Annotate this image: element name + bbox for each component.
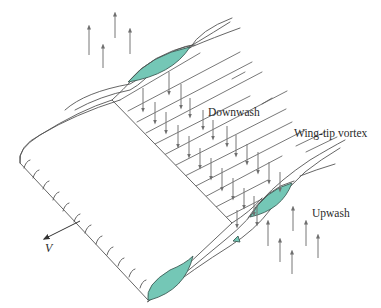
wing	[19, 100, 232, 302]
trailing-edge-section	[233, 236, 240, 242]
upwash-label: Upwash	[312, 207, 350, 220]
upwash-arrows-right	[268, 208, 318, 274]
wingtip-vortex-label: Wing-tip vortex	[294, 127, 368, 140]
left-wingtip-vortex	[65, 18, 240, 110]
velocity-vector: V	[44, 221, 80, 255]
velocity-label: V	[45, 241, 54, 255]
downwash-label: Downwash	[208, 106, 260, 118]
right-airfoil-section	[250, 183, 292, 217]
wingtip-vortex-diagram: V	[0, 0, 381, 308]
upwash-arrows-left	[89, 14, 130, 68]
